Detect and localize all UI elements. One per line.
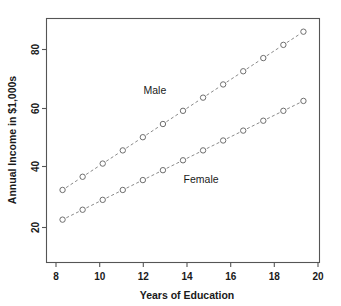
series-segment <box>207 87 220 96</box>
data-point <box>80 174 85 179</box>
x-tick-label: 12 <box>138 271 150 282</box>
series-segment <box>187 152 200 158</box>
x-tick-label: 20 <box>312 271 324 282</box>
series-segment <box>66 212 79 218</box>
data-point <box>80 207 85 212</box>
data-point <box>301 29 306 34</box>
series-segment <box>227 132 240 138</box>
data-point <box>200 148 205 153</box>
series-segment <box>127 182 140 188</box>
x-axis-ticks <box>56 263 318 268</box>
data-point <box>261 55 266 60</box>
series-segment <box>187 100 200 109</box>
data-point <box>180 158 185 163</box>
x-tick-label: 18 <box>269 271 281 282</box>
series-segment <box>147 172 160 178</box>
data-point <box>220 82 225 87</box>
series-male <box>60 29 306 193</box>
x-axis-title: Years of Education <box>140 289 235 301</box>
x-tick-label: 8 <box>53 271 59 282</box>
series-female <box>60 98 306 222</box>
data-point <box>200 95 205 100</box>
data-point <box>100 161 105 166</box>
figure-container: 20 40 60 80 8 10 12 14 16 18 20 Years of… <box>0 0 341 306</box>
data-point <box>160 167 165 172</box>
x-axis-tick-labels: 8 10 12 14 16 18 20 <box>53 271 324 282</box>
chart-canvas: 20 40 60 80 8 10 12 14 16 18 20 Years of… <box>0 0 341 306</box>
data-point <box>60 217 65 222</box>
series-segment <box>287 34 300 43</box>
y-tick-label: 20 <box>30 222 41 234</box>
series-segment <box>247 123 260 129</box>
data-point <box>241 69 246 74</box>
series-layer <box>60 29 306 222</box>
series-segment <box>66 179 79 188</box>
y-axis-tick-labels: 20 40 60 80 <box>30 44 41 234</box>
data-point <box>60 187 65 192</box>
series-segment <box>207 142 220 148</box>
x-tick-label: 16 <box>225 271 237 282</box>
plot-frame <box>47 19 320 263</box>
series-segment <box>227 74 240 83</box>
data-point <box>100 197 105 202</box>
y-axis-ticks <box>42 50 47 228</box>
data-point <box>140 177 145 182</box>
data-point <box>180 108 185 113</box>
series-segment <box>287 103 300 109</box>
data-point <box>160 121 165 126</box>
series-segment <box>106 153 119 162</box>
data-point <box>241 128 246 133</box>
x-tick-label: 10 <box>94 271 106 282</box>
series-segment <box>267 47 280 56</box>
annotation-layer: MaleFemale <box>144 84 219 185</box>
series-segment <box>247 60 260 69</box>
series-segment <box>146 126 159 135</box>
series-annotation-male: Male <box>144 84 167 96</box>
series-segment <box>106 192 119 198</box>
data-point <box>301 98 306 103</box>
series-segment <box>267 113 280 119</box>
data-point <box>281 42 286 47</box>
series-segment <box>167 162 180 168</box>
data-point <box>120 187 125 192</box>
y-axis-title: Annual Income in $1,000s <box>6 76 18 205</box>
data-point <box>140 135 145 140</box>
series-segment <box>166 113 179 122</box>
series-segment <box>86 166 99 175</box>
data-point <box>281 108 286 113</box>
data-point <box>120 148 125 153</box>
series-annotation-female: Female <box>184 173 219 185</box>
series-segment <box>86 202 99 208</box>
x-tick-label: 14 <box>181 271 193 282</box>
data-point <box>261 118 266 123</box>
y-tick-label: 60 <box>30 103 41 115</box>
y-tick-label: 80 <box>30 44 41 56</box>
data-point <box>220 138 225 143</box>
series-segment <box>126 140 139 149</box>
y-tick-label: 40 <box>30 161 41 173</box>
